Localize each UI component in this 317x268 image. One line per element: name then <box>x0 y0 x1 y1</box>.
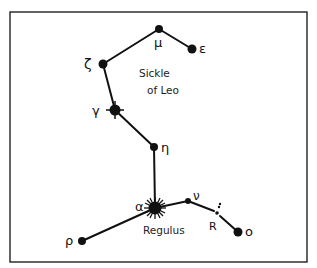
line-gamma-eta <box>115 110 154 147</box>
line-epsilon-mu <box>159 29 192 49</box>
star-omicron <box>234 228 243 237</box>
stars <box>78 25 243 245</box>
line-mu-zeta <box>103 29 159 64</box>
star-R-variable-icon <box>215 203 221 215</box>
label-eta: η <box>161 140 169 155</box>
title-sickle: Sickle <box>139 67 170 79</box>
star-epsilon <box>188 45 197 54</box>
star-mu <box>155 25 163 33</box>
star-eta <box>150 143 158 151</box>
label-rho: ρ <box>65 233 73 248</box>
star-regulus-burst-icon <box>144 197 166 219</box>
title-of-leo: of Leo <box>147 84 179 96</box>
line-zeta-gamma <box>103 64 115 110</box>
label-omicron: ο <box>245 224 253 239</box>
label-gamma: γ <box>92 103 100 118</box>
sickle-of-leo-diagram: μ ε ζ γ η α ν R ο ρ Regulus Sickle of Le… <box>0 0 317 268</box>
label-nu: ν <box>193 189 200 203</box>
label-epsilon: ε <box>199 41 206 56</box>
label-zeta: ζ <box>84 56 92 72</box>
label-mu: μ <box>154 35 162 50</box>
star-rho <box>78 237 86 245</box>
star-zeta <box>99 60 108 69</box>
label-alpha: α <box>135 199 144 214</box>
star-nu <box>185 198 191 204</box>
label-R: R <box>209 220 217 233</box>
line-nu-R <box>188 201 214 211</box>
label-regulus: Regulus <box>143 224 185 236</box>
